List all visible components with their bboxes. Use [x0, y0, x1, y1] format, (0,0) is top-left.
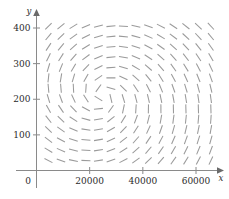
field-dash: [145, 55, 152, 60]
field-dash: [72, 94, 76, 102]
field-dash: [208, 33, 214, 40]
field-dash: [211, 115, 212, 124]
field-dash: [132, 65, 140, 70]
field-dash: [183, 54, 188, 61]
field-dash: [94, 129, 103, 131]
field-dash: [58, 33, 64, 39]
field-dash: [157, 24, 165, 28]
field-dash: [84, 74, 88, 82]
field-dash: [208, 43, 213, 50]
field-dash: [59, 94, 62, 102]
field-dash: [81, 139, 90, 140]
field-dash: [171, 64, 176, 71]
field-dash: [106, 57, 115, 58]
field-dash: [184, 136, 187, 144]
field-dash: [159, 84, 162, 92]
field-dash: [184, 157, 189, 165]
field-dash: [132, 55, 140, 59]
direction-field-figure: 200004000060000100200300400 y x 0: [0, 0, 229, 199]
field-dash: [210, 84, 212, 93]
field-dash: [136, 104, 137, 113]
field-dash: [69, 160, 78, 162]
field-dash: [57, 159, 65, 162]
field-dash: [106, 46, 115, 47]
field-dash: [94, 160, 103, 161]
field-dash: [171, 74, 175, 82]
field-dash: [171, 157, 176, 164]
field-dash: [57, 23, 64, 29]
field-dash: [94, 108, 103, 109]
field-dash: [185, 115, 186, 124]
field-dash: [48, 73, 49, 82]
field-dash: [46, 105, 50, 113]
field-dash: [94, 139, 103, 141]
field-dash: [183, 34, 190, 40]
field-dash: [183, 44, 189, 51]
field-dash: [94, 25, 103, 27]
field-dash: [198, 94, 199, 103]
field-dash: [60, 73, 62, 82]
field-dash: [107, 138, 115, 142]
field-dash: [110, 94, 112, 103]
field-dash: [61, 84, 62, 93]
field-dash: [120, 126, 126, 132]
field-dash: [185, 125, 187, 134]
field-dash: [197, 146, 201, 154]
field-dash: [82, 45, 90, 50]
field-dash: [94, 45, 103, 48]
field-dash: [120, 137, 127, 143]
field-dash: [182, 23, 189, 29]
field-dash: [119, 56, 128, 58]
field-dash: [158, 74, 163, 82]
direction-field-dashes: [44, 23, 213, 165]
tick-labels-group: 200004000060000100200300400: [13, 23, 210, 186]
field-dash: [58, 116, 64, 122]
field-dash: [107, 127, 115, 131]
field-dash: [106, 36, 115, 37]
field-dash: [119, 26, 128, 27]
y-tick-label: 200: [13, 94, 30, 104]
field-dash: [119, 76, 127, 80]
field-dash: [94, 35, 103, 38]
field-dash: [185, 94, 186, 103]
field-dash: [94, 56, 102, 59]
y-tick-label: 400: [13, 23, 30, 33]
field-dash: [121, 115, 126, 123]
x-axis-label: x: [219, 173, 224, 183]
field-dash: [209, 53, 214, 61]
field-dash: [171, 146, 175, 154]
field-dash: [58, 105, 63, 112]
field-dash: [196, 64, 200, 72]
field-dash: [132, 45, 141, 48]
field-dash: [107, 87, 116, 89]
field-dash: [133, 84, 138, 91]
field-dash: [82, 35, 90, 39]
field-dash: [196, 53, 201, 61]
field-dash: [58, 43, 64, 50]
field-dash: [70, 106, 76, 113]
field-dash: [57, 138, 65, 142]
field-dash: [70, 117, 78, 122]
field-dash: [69, 138, 78, 141]
field-dash: [158, 64, 164, 71]
field-dash: [82, 118, 91, 120]
field-dash: [172, 125, 174, 134]
field-dash: [210, 125, 212, 134]
field-dash: [172, 84, 175, 92]
field-dash: [47, 63, 50, 72]
field-dash: [172, 136, 176, 144]
field-dash: [45, 23, 51, 29]
field-dash: [195, 23, 202, 29]
field-dash: [159, 125, 162, 133]
field-dash: [45, 137, 52, 142]
field-dash: [184, 64, 189, 72]
field-dash: [122, 94, 125, 103]
y-axis-label: y: [26, 6, 32, 16]
field-dash: [133, 137, 139, 144]
field-dash: [71, 54, 77, 61]
y-tick-label: 300: [13, 59, 30, 69]
field-dash: [134, 115, 137, 123]
field-dash: [158, 146, 163, 153]
field-dash: [94, 150, 103, 151]
field-dash: [120, 85, 126, 91]
